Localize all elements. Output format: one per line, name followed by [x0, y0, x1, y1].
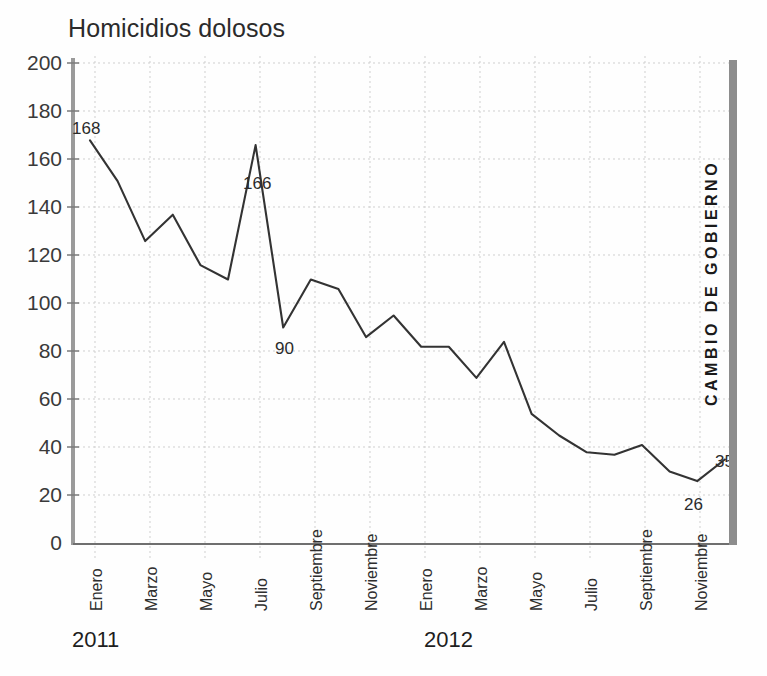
y-axis-labels: 200 180 160 140 120 100 80 60 40 20 0 — [0, 0, 62, 676]
cambio-de-gobierno-label: CAMBIO DE GOBIERNO — [703, 118, 729, 448]
data-label-168: 168 — [72, 119, 100, 139]
y-tick-160: 160 — [8, 148, 62, 169]
y-tick-100: 100 — [8, 292, 62, 313]
data-series-line — [90, 140, 725, 481]
x-tick-septiembre-2011: Septiembre — [308, 529, 326, 611]
x-tick-noviembre-2012: Noviembre — [693, 534, 711, 611]
gridlines-horizontal — [73, 63, 737, 495]
x-tick-marzo-2011: Marzo — [143, 567, 161, 611]
cambio-de-gobierno-marker — [729, 60, 737, 545]
y-tick-20: 20 — [8, 484, 62, 505]
data-label-166: 166 — [243, 174, 271, 194]
y-tick-0: 0 — [8, 532, 62, 553]
y-tick-140: 140 — [8, 196, 62, 217]
year-label-2012: 2012 — [424, 627, 473, 653]
y-tick-80: 80 — [8, 340, 62, 361]
x-tick-marzo-2012: Marzo — [473, 567, 491, 611]
gridlines-vertical — [95, 56, 700, 560]
data-label-90: 90 — [275, 339, 294, 359]
x-tick-noviembre-2011: Noviembre — [363, 534, 381, 611]
y-tick-40: 40 — [8, 436, 62, 457]
x-tick-julio-2011: Julio — [253, 578, 271, 611]
x-tick-septiembre-2012: Septiembre — [638, 529, 656, 611]
y-tick-200: 200 — [8, 52, 62, 73]
x-tick-enero-2011: Enero — [88, 568, 106, 611]
y-tick-60: 60 — [8, 388, 62, 409]
chart-page: Homicidios dolosos — [0, 0, 767, 676]
x-tick-mayo-2012: Mayo — [528, 572, 546, 611]
y-tick-120: 120 — [8, 244, 62, 265]
data-label-26: 26 — [684, 495, 703, 515]
year-label-2011: 2011 — [72, 627, 119, 653]
x-tick-julio-2012: Julio — [583, 578, 601, 611]
x-tick-mayo-2011: Mayo — [198, 572, 216, 611]
y-tick-180: 180 — [8, 100, 62, 121]
x-tick-enero-2012: Enero — [418, 568, 436, 611]
